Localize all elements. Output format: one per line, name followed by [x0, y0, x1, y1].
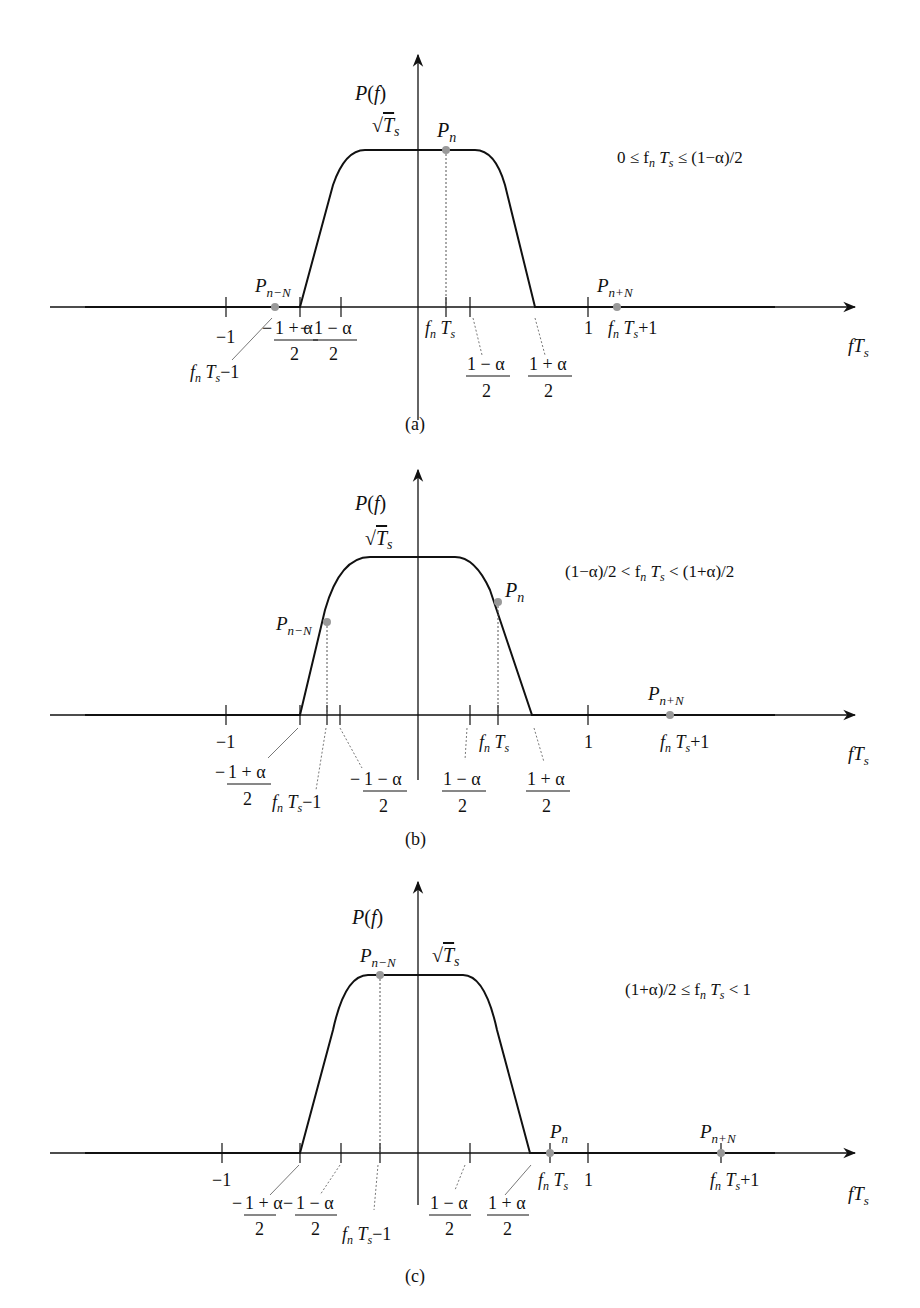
tick-label-pos-1ma: 1 − α 2: [442, 769, 486, 816]
tick-label-fnts-plus1: fn Ts+1: [660, 732, 709, 755]
svg-text:2: 2: [255, 1219, 264, 1239]
tick-label-fnts: fn Ts: [479, 732, 510, 755]
tick-label-fnts-minus1: fn Ts−1: [190, 362, 239, 385]
leader-line: [505, 1165, 531, 1195]
svg-text:1 − α: 1 − α: [430, 1193, 468, 1213]
panel-b: P(f) √Ts Pn Pn−N Pn+N (1−α)/2 < fn Ts < …: [50, 470, 869, 850]
leader-line: [534, 728, 544, 762]
label-pn-minus-n: Pn−N: [254, 275, 292, 300]
svg-text:1 − α: 1 − α: [296, 1193, 334, 1213]
y-axis-label: P(f): [351, 906, 383, 929]
spectrum-curve: [85, 150, 775, 307]
leader-line: [473, 318, 482, 355]
tick-label-pos-1pa: 1 + α 2: [487, 1193, 529, 1239]
spectrum-curve: [85, 975, 775, 1153]
svg-text:1 − α: 1 − α: [443, 769, 481, 789]
peak-label: √Ts: [432, 944, 460, 969]
label-pn: Pn: [549, 1121, 568, 1146]
caption-a: (a): [405, 414, 425, 435]
tick-label-pos-1pa: 1 + α 2: [528, 354, 572, 401]
svg-text:−: −: [215, 762, 225, 782]
svg-text:1 + α: 1 + α: [488, 1193, 526, 1213]
svg-text:1 + α: 1 + α: [245, 1193, 283, 1213]
leader-line: [374, 1165, 378, 1210]
leader-line: [340, 728, 362, 768]
svg-text:1 − α: 1 − α: [364, 769, 402, 789]
svg-text:2: 2: [445, 1219, 454, 1239]
leader-line: [455, 1165, 465, 1190]
svg-text:1 + α: 1 + α: [529, 354, 567, 374]
point-pn-plus-n: [717, 1149, 725, 1157]
tick-label-pos-1ma: 1 − α 2: [429, 1193, 471, 1239]
x-axis-label: fTs: [848, 743, 869, 768]
svg-text:−: −: [350, 769, 360, 789]
point-pn-plus-n: [666, 711, 674, 719]
point-pn-plus-n: [613, 303, 621, 311]
y-axis-label: P(f): [354, 492, 386, 515]
panel-c: P(f) √Ts Pn−N Pn Pn+N (1+α)/2 ≤ fn Ts < …: [50, 882, 869, 1287]
leader-line: [316, 728, 326, 790]
svg-text:−: −: [232, 1193, 242, 1213]
tick-label-fnts-plus1: fn Ts+1: [710, 1170, 759, 1193]
svg-text:2: 2: [482, 381, 491, 401]
point-pn-minus-n: [376, 971, 384, 979]
peak-label: √Ts: [365, 527, 393, 552]
svg-text:2: 2: [311, 1219, 320, 1239]
tick-label: 1: [584, 732, 593, 752]
tick-label: −1: [216, 732, 235, 752]
label-pn: Pn: [436, 119, 456, 145]
svg-text:2: 2: [290, 344, 299, 364]
label-pn-minus-n: Pn−N: [359, 945, 397, 970]
label-pn-plus-n: Pn+N: [699, 1121, 737, 1146]
tick-label-fnts-minus1: fn Ts−1: [342, 1224, 391, 1247]
panel-a: P(f) √Ts Pn Pn−N Pn+N 0 ≤ fn Ts ≤ (1−α)/…: [50, 55, 869, 435]
svg-text:−: −: [300, 318, 310, 338]
tick-label: 1: [584, 318, 593, 338]
tick-label-neg-1ma: − 1 − α 2: [300, 318, 357, 364]
tick-label-fnts-plus1: fn Ts+1: [608, 318, 657, 341]
point-pn: [494, 598, 502, 606]
x-axis-label: fTs: [848, 1183, 869, 1208]
svg-text:1 + α: 1 + α: [228, 762, 266, 782]
tick-label: −1: [216, 327, 235, 347]
figure-canvas: P(f) √Ts Pn Pn−N Pn+N 0 ≤ fn Ts ≤ (1−α)/…: [0, 0, 920, 1308]
svg-text:2: 2: [329, 344, 338, 364]
svg-text:−: −: [262, 318, 272, 338]
svg-text:2: 2: [458, 796, 467, 816]
condition-b: (1−α)/2 < fn Ts < (1+α)/2: [565, 562, 734, 584]
leader-line: [320, 1165, 340, 1195]
svg-text:1 − α: 1 − α: [467, 354, 505, 374]
condition-c: (1+α)/2 ≤ fn Ts < 1: [625, 980, 751, 1002]
tick-label-fnts-minus1: fn Ts−1: [272, 792, 321, 815]
svg-text:1 − α: 1 − α: [314, 318, 352, 338]
tick-label-neg-1ma: − 1 − α 2: [283, 1193, 337, 1239]
point-pn-minus-n: [271, 303, 279, 311]
y-axis-label: P(f): [354, 82, 386, 105]
leader-line: [270, 1165, 299, 1195]
x-axis-label: fTs: [848, 335, 869, 360]
label-pn-minus-n: Pn−N: [275, 613, 313, 638]
tick-label: 1: [584, 1170, 593, 1190]
tick-label-pos-1pa: 1 + α 2: [526, 769, 570, 816]
tick-label-neg-1ma: − 1 − α 2: [350, 769, 407, 816]
svg-text:2: 2: [379, 796, 388, 816]
caption-b: (b): [405, 829, 426, 850]
svg-text:2: 2: [542, 796, 551, 816]
leader-line: [465, 728, 467, 760]
svg-text:1 + α: 1 + α: [527, 769, 565, 789]
point-pn: [442, 146, 450, 154]
caption-c: (c): [405, 1266, 425, 1287]
peak-label: √Ts: [372, 114, 400, 139]
svg-text:2: 2: [503, 1219, 512, 1239]
tick-label-neg-1pa: − 1 + α 2: [215, 762, 271, 809]
label-pn-plus-n: Pn+N: [647, 683, 685, 708]
leader-line: [268, 728, 298, 758]
tick-label: −1: [212, 1170, 231, 1190]
label-pn: Pn: [504, 579, 524, 605]
svg-text:2: 2: [243, 789, 252, 809]
condition-a: 0 ≤ fn Ts ≤ (1−α)/2: [617, 148, 743, 170]
svg-text:2: 2: [544, 381, 553, 401]
leader-line: [535, 318, 545, 355]
tick-label-pos-1ma: 1 − α 2: [466, 354, 510, 401]
tick-label-neg-1pa: − 1 + α 2: [232, 1193, 283, 1239]
